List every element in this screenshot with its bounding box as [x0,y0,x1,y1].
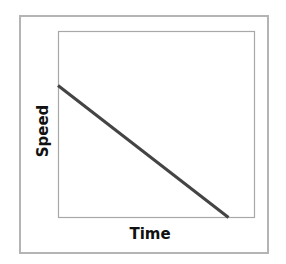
x-axis-label: Time [129,225,170,243]
plot-area [59,32,255,218]
y-axis-label: Speed [34,105,52,158]
speed-line [58,85,229,217]
